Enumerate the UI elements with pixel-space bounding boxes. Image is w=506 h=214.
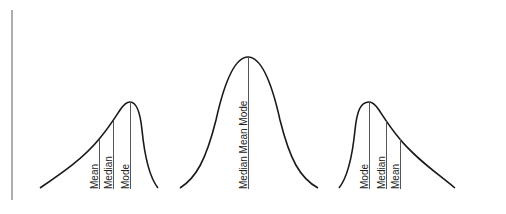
median-label: Median — [103, 156, 114, 189]
positive-skew-panel: Mode Median Mean — [339, 102, 455, 189]
median-mean-mode-label: Median Mean Mode — [238, 100, 249, 189]
mean-label: Mean — [89, 164, 100, 189]
median-label: Median — [376, 156, 387, 189]
symmetric-panel: Median Mean Mode — [180, 57, 318, 189]
skewness-diagram: Mean Median Mode Median Mean Mode Mode M… — [0, 0, 506, 214]
mode-label: Mode — [359, 164, 370, 189]
negative-skew-panel: Mean Median Mode — [40, 102, 158, 189]
mean-label: Mean — [390, 164, 401, 189]
mode-label: Mode — [120, 164, 131, 189]
